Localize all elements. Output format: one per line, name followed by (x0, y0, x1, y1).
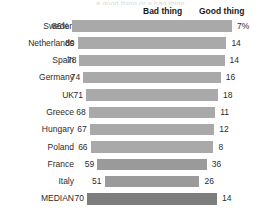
chart-row: Spain7814 (0, 53, 267, 70)
bar-track (78, 87, 267, 104)
row-value-good: 14 (231, 38, 240, 49)
row-value-good: 18 (223, 90, 232, 101)
row-value-good: 14 (222, 193, 231, 204)
bar-track (78, 104, 267, 121)
bar-track (78, 122, 267, 139)
row-label: Italy (0, 176, 74, 187)
row-value-good: 16 (226, 72, 235, 83)
row-value-bad: 78 (50, 55, 76, 66)
bar (83, 72, 221, 83)
chart-row: France5936 (0, 156, 267, 173)
row-value-good: 8 (218, 142, 223, 153)
chart-row: Greece6811 (0, 104, 267, 121)
bar (89, 107, 215, 118)
clipped-title-remnant: a good thing or a bad thing (96, 0, 216, 5)
chart-row: MEDIAN7014 (0, 191, 267, 208)
bar (72, 20, 232, 31)
chart-row: UK7118 (0, 87, 267, 104)
chart-row: Italy5126 (0, 174, 267, 191)
bar-track (78, 156, 267, 173)
bar (97, 159, 207, 170)
chart-row: Poland668 (0, 139, 267, 156)
row-value-good: 26 (204, 176, 213, 187)
row-value-good: 14 (230, 55, 239, 66)
chart-row: Sweden86%7% (0, 18, 267, 35)
chart-row: Netherlands8014 (0, 35, 267, 52)
bar (79, 55, 224, 66)
row-label: France (0, 159, 74, 170)
median-bar (87, 193, 217, 204)
column-header-bad-thing: Bad thing (143, 6, 182, 17)
chart-row: Hungary6712 (0, 122, 267, 139)
row-value-bad: 86% (43, 21, 69, 32)
row-value-good: 36 (212, 159, 221, 170)
bar (91, 141, 214, 152)
bar-track (78, 191, 267, 208)
bar (90, 124, 215, 135)
column-headers: Bad thing Good thing (0, 6, 267, 18)
bar-track (78, 174, 267, 191)
bar-track (78, 70, 267, 87)
bar-chart: a good thing or a bad thing Bad thing Go… (0, 0, 267, 218)
bar (105, 176, 200, 187)
row-value-good: 7% (237, 21, 249, 32)
bar-track (78, 139, 267, 156)
chart-rows: Sweden86%7%Netherlands8014Spain7814Germa… (0, 18, 267, 208)
row-value-good: 12 (219, 124, 228, 135)
column-header-good-thing: Good thing (199, 6, 244, 17)
bar (78, 37, 227, 48)
chart-row: Germany7416 (0, 70, 267, 87)
bar (86, 89, 218, 100)
row-value-bad: 74 (54, 72, 80, 83)
row-value-bad: 80 (49, 38, 75, 49)
row-value-good: 11 (220, 107, 229, 118)
